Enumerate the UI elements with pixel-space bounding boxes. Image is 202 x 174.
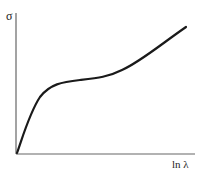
stress-stretch-chart: σ ln λ — [0, 0, 202, 174]
x-axis-label: ln λ — [172, 159, 189, 170]
y-axis-label: σ — [6, 10, 12, 22]
data-curve — [17, 27, 186, 153]
chart-canvas — [0, 0, 202, 174]
